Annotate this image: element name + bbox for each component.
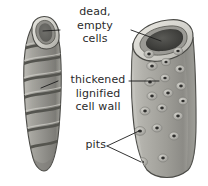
label-wall-line1: thickened (0, 73, 196, 87)
pit-dot (172, 135, 176, 138)
label-dead-line3: cells (0, 32, 190, 46)
pit-dot (150, 64, 154, 67)
label-wall-line2: lignified (0, 87, 196, 101)
label-pits: pits (56, 138, 106, 152)
pit-dot (155, 127, 159, 130)
label-dead-empty-cells: dead, empty cells (0, 5, 190, 46)
pit-dot (178, 68, 182, 71)
label-dead-line2: empty (0, 19, 190, 33)
pit-dot (161, 157, 165, 160)
pit-dot (147, 53, 151, 56)
pit-dot (176, 115, 180, 118)
label-dead-line1: dead, (0, 5, 190, 19)
label-wall-line3: cell wall (0, 100, 196, 114)
xylem-vessel-diagram: dead, empty cells thickened lignified ce… (0, 0, 208, 186)
leader-pits-lower (107, 146, 141, 162)
pit-dot (164, 61, 167, 64)
leader-pits-upper (107, 131, 139, 146)
pit-dot (176, 50, 179, 53)
label-pits-text: pits (56, 138, 106, 152)
label-thickened-lignified-cell-wall: thickened lignified cell wall (0, 73, 196, 114)
